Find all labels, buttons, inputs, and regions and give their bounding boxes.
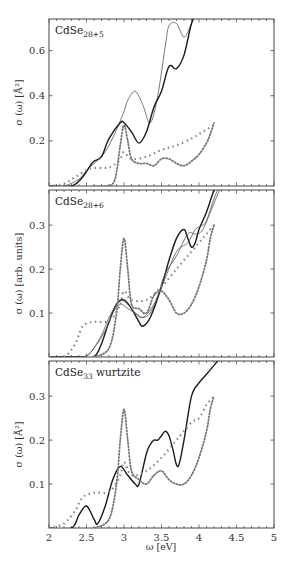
- x-tick-label: 5: [271, 532, 277, 543]
- panel-2: 0.10.20.3σ (ω) [arb. units]CdSe28+6: [13, 172, 274, 358]
- y-tick-label: 0.1: [29, 308, 45, 319]
- y-tick-label: 0.1: [29, 479, 45, 490]
- series-line-thin: [49, 181, 222, 357]
- figure: 0.20.40.6σ (ω) [Å²]CdSe28+50.10.20.3σ (ω…: [0, 0, 285, 572]
- panel-1: 0.20.40.6σ (ω) [Å²]CdSe28+5: [13, 5, 274, 186]
- y-tick-label: 0.2: [29, 135, 45, 146]
- series-group: [49, 361, 218, 529]
- panels-group: 0.20.40.6σ (ω) [Å²]CdSe28+50.10.20.3σ (ω…: [13, 5, 277, 543]
- series-dotted: [94, 396, 214, 528]
- y-tick-label: 0.4: [29, 90, 45, 101]
- series-crosses: [49, 125, 214, 186]
- x-tick-label: 4.5: [229, 532, 245, 543]
- x-tick-label: 2: [46, 532, 52, 543]
- plot-frame: [49, 190, 274, 357]
- panel-label: CdSe33 wurtzite: [55, 366, 140, 381]
- x-axis-label: ω [eV]: [146, 541, 177, 552]
- series-crosses: [49, 225, 214, 358]
- y-axis-label: σ (ω) [arb. units]: [13, 233, 24, 314]
- panel-label: CdSe28+5: [55, 24, 104, 39]
- y-tick-label: 0.3: [29, 220, 45, 231]
- plot-frame: [49, 19, 274, 186]
- panel-label: CdSe28+6: [55, 195, 104, 210]
- series-dotted: [94, 225, 214, 357]
- plot-frame: [49, 361, 274, 528]
- x-tick-label: 2.5: [79, 532, 95, 543]
- panel-3: 0.10.20.322.533.544.55σ (ω) [Å²]CdSe33 w…: [13, 361, 277, 543]
- series-crosses: [49, 396, 214, 528]
- x-tick-label: 4: [196, 532, 202, 543]
- series-line-thin: [49, 186, 222, 358]
- y-tick-label: 0.3: [29, 391, 45, 402]
- y-axis-label: σ (ω) [Å²]: [13, 422, 24, 468]
- y-tick-label: 0.6: [29, 45, 45, 56]
- y-tick-label: 0.2: [29, 264, 45, 275]
- y-axis-label: σ (ω) [Å²]: [13, 80, 24, 126]
- y-tick-label: 0.2: [29, 435, 45, 446]
- series-line-thick: [49, 361, 218, 529]
- x-tick-label: 3: [121, 532, 127, 543]
